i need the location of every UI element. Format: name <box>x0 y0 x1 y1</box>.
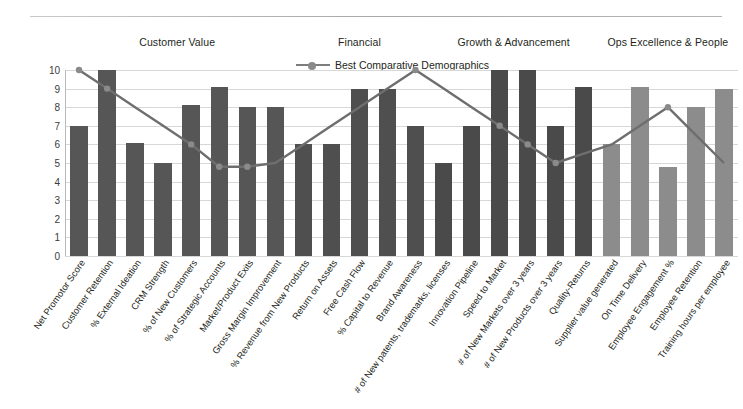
y-axis: 109876543210 <box>38 70 60 256</box>
x-axis-label-text: Employee Retention <box>648 258 704 332</box>
line-marker-6 <box>244 164 250 170</box>
y-axis-tick-2: 2 <box>38 213 60 224</box>
line-path <box>79 70 724 167</box>
x-axis-label-text: % External Ideation <box>89 258 143 330</box>
line-marker-5 <box>216 164 222 170</box>
x-axis-label-text: Innovation Pipeline <box>427 258 480 328</box>
section-header-band: Customer ValueFinancialGrowth & Advancem… <box>0 36 743 54</box>
top-divider-rule <box>30 16 722 17</box>
section-header-3: Ops Excellence & People <box>548 36 743 48</box>
legend-line-marker-icon <box>296 60 330 70</box>
line-marker-0 <box>76 67 82 73</box>
line-marker-4 <box>188 141 194 147</box>
y-axis-tick-9: 9 <box>38 83 60 94</box>
y-axis-tick-3: 3 <box>38 195 60 206</box>
line-marker-17 <box>553 160 559 166</box>
y-axis-tick-0: 0 <box>38 251 60 262</box>
y-axis-tick-4: 4 <box>38 176 60 187</box>
line-marker-21 <box>665 104 671 110</box>
line-marker-12 <box>412 67 418 73</box>
x-axis-label-text: Customer Retention <box>60 258 116 331</box>
y-axis-tick-8: 8 <box>38 102 60 113</box>
y-axis-tick-5: 5 <box>38 158 60 169</box>
line-marker-1 <box>104 85 110 91</box>
y-axis-tick-1: 1 <box>38 232 60 243</box>
y-axis-tick-6: 6 <box>38 139 60 150</box>
x-axis-category-labels: Net Promotor ScoreCustomer Retention% Ex… <box>65 258 743 408</box>
y-axis-tick-10: 10 <box>38 65 60 76</box>
x-axis-label-text: Net Promotor Score <box>32 258 87 331</box>
line-marker-15 <box>496 123 502 129</box>
y-axis-tick-7: 7 <box>38 120 60 131</box>
